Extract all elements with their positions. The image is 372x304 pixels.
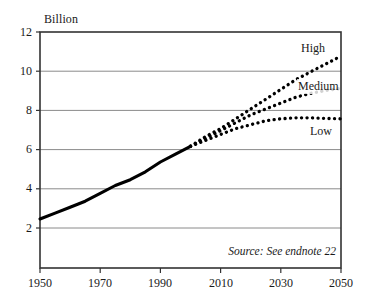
ytick-label-6: 6 — [2, 142, 32, 157]
series-label-high: High — [300, 41, 326, 56]
xtick-label-2030: 2030 — [251, 276, 311, 291]
ytick-label-8: 8 — [2, 103, 32, 118]
y-axis-unit-label: Billion — [44, 12, 78, 27]
xtick-label-1970: 1970 — [70, 276, 130, 291]
xtick-label-1990: 1990 — [130, 276, 190, 291]
ytick-label-10: 10 — [2, 64, 32, 79]
population-projection-chart: Billion 12 10 8 6 4 2 1950 1970 1990 201… — [0, 0, 372, 304]
xtick-label-2050: 2050 — [311, 276, 371, 291]
series-label-medium: Medium — [297, 79, 340, 94]
xtick-label-1950: 1950 — [10, 276, 70, 291]
ytick-label-4: 4 — [2, 181, 32, 196]
series-label-low: Low — [309, 124, 333, 139]
source-note: Source: See endnote 22 — [228, 245, 336, 257]
ytick-label-2: 2 — [2, 221, 32, 236]
xtick-label-2010: 2010 — [191, 276, 251, 291]
ytick-label-12: 12 — [2, 25, 32, 40]
